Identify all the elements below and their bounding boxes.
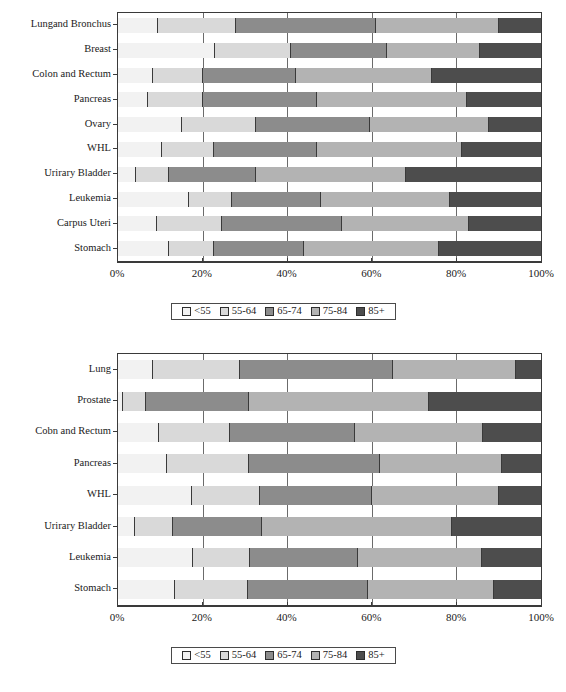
bar-segment-65-74 bbox=[222, 216, 343, 231]
bar-segment-65-74 bbox=[240, 360, 393, 379]
bar-segment-75-84 bbox=[317, 142, 463, 157]
bar-segment-55 bbox=[118, 92, 148, 107]
bar-segment-75-84 bbox=[317, 92, 467, 107]
bar-segment-65-74 bbox=[250, 548, 358, 567]
chart-legend-1: <5555-6465-7475-8485+ bbox=[171, 303, 396, 320]
legend-swatch-icon bbox=[311, 651, 320, 660]
bar-row bbox=[118, 92, 541, 107]
bar-row bbox=[118, 192, 541, 207]
bar-segment-55-64 bbox=[159, 423, 230, 442]
bar-segment-85 bbox=[499, 18, 541, 33]
bar-segment-55 bbox=[118, 360, 153, 379]
bar-segment-65-74 bbox=[291, 43, 386, 58]
legend-item: 75-84 bbox=[311, 650, 348, 661]
bar-segment-65-74 bbox=[260, 486, 372, 505]
bar-row bbox=[118, 486, 541, 505]
bar-segment-75-84 bbox=[304, 241, 439, 256]
legend-item: 65-74 bbox=[265, 650, 302, 661]
bar-segment-85 bbox=[489, 117, 541, 132]
bar-segment-65-74 bbox=[236, 18, 376, 33]
category-tick bbox=[113, 431, 117, 432]
bar-row bbox=[118, 360, 541, 379]
bar-segment-55-64 bbox=[167, 454, 249, 473]
bar-segment-65-74 bbox=[146, 392, 249, 411]
bar-row bbox=[118, 142, 541, 157]
bar-segment-85 bbox=[462, 142, 541, 157]
x-axis-tick bbox=[371, 258, 372, 262]
x-axis-tick-label: 40% bbox=[277, 268, 297, 279]
x-axis-tick-label: 80% bbox=[446, 612, 466, 623]
bar-segment-55 bbox=[118, 192, 189, 207]
bar-segment-85 bbox=[439, 241, 541, 256]
x-axis-tick bbox=[456, 602, 457, 606]
bar-row bbox=[118, 423, 541, 442]
category-label: Leukemia bbox=[0, 193, 111, 204]
bar-row bbox=[118, 167, 541, 182]
bar-row bbox=[118, 216, 541, 231]
legend-swatch-icon bbox=[356, 651, 365, 660]
bar-segment-85 bbox=[452, 517, 541, 536]
x-axis-tick bbox=[456, 258, 457, 262]
bar-segment-55 bbox=[118, 423, 159, 442]
legend-item: <55 bbox=[182, 650, 210, 661]
legend-swatch-icon bbox=[220, 307, 229, 316]
bar-row bbox=[118, 43, 541, 58]
chart-plot-area-1: Lungand BronchusBreastColon and RectumPa… bbox=[0, 0, 566, 300]
legend-item: <55 bbox=[182, 306, 210, 317]
legend-item: 65-74 bbox=[265, 306, 302, 317]
bar-segment-55 bbox=[118, 241, 169, 256]
x-axis-tick bbox=[541, 602, 542, 606]
legend-swatch-icon bbox=[220, 651, 229, 660]
bar-segment-55-64 bbox=[153, 360, 240, 379]
category-tick bbox=[113, 124, 117, 125]
legend-swatch-icon bbox=[356, 307, 365, 316]
legend-label: 55-64 bbox=[232, 306, 257, 317]
x-axis-tick bbox=[202, 602, 203, 606]
bar-segment-55-64 bbox=[193, 548, 250, 567]
category-label: Urirary Bladder bbox=[0, 168, 111, 179]
bar-row bbox=[118, 517, 541, 536]
bar-row bbox=[118, 68, 541, 83]
legend-label: <55 bbox=[194, 306, 210, 317]
category-label: Lungand Bronchus bbox=[0, 19, 111, 30]
bar-row bbox=[118, 117, 541, 132]
legend-swatch-icon bbox=[265, 651, 274, 660]
legend-swatch-icon bbox=[182, 651, 191, 660]
bar-segment-55-64 bbox=[158, 18, 236, 33]
chart-panel-female-cancer-age-distribution: Lungand BronchusBreastColon and RectumPa… bbox=[0, 0, 566, 345]
category-label: Colon and Rectum bbox=[0, 69, 111, 80]
bar-segment-75-84 bbox=[256, 167, 405, 182]
bar-segment-55-64 bbox=[157, 216, 221, 231]
bar-segment-65-74 bbox=[248, 580, 368, 599]
category-tick bbox=[113, 223, 117, 224]
bar-segment-85 bbox=[406, 167, 541, 182]
bar-segment-55 bbox=[118, 117, 182, 132]
category-tick bbox=[113, 74, 117, 75]
category-tick bbox=[113, 400, 117, 401]
x-axis-tick bbox=[202, 258, 203, 262]
bar-segment-55 bbox=[118, 548, 193, 567]
bar-segment-55 bbox=[118, 517, 135, 536]
bar-segment-55-64 bbox=[123, 392, 146, 411]
bar-segment-75-84 bbox=[296, 68, 431, 83]
x-axis-line bbox=[117, 606, 542, 607]
category-tick bbox=[113, 99, 117, 100]
bar-segment-75-84 bbox=[372, 486, 499, 505]
x-axis-tick-label: 100% bbox=[528, 612, 554, 623]
bar-segment-85 bbox=[467, 92, 541, 107]
category-tick bbox=[113, 49, 117, 50]
bar-segment-85 bbox=[480, 43, 540, 58]
bar-segment-55-64 bbox=[182, 117, 256, 132]
category-tick bbox=[113, 463, 117, 464]
bar-segment-65-74 bbox=[232, 192, 321, 207]
legend-label: 65-74 bbox=[277, 306, 302, 317]
bar-segment-55 bbox=[118, 216, 157, 231]
category-label: Pancreas bbox=[0, 94, 111, 105]
x-axis-tick bbox=[287, 602, 288, 606]
bar-segment-75-84 bbox=[262, 517, 452, 536]
x-axis-tick bbox=[117, 258, 118, 262]
bar-segment-55-64 bbox=[169, 241, 214, 256]
category-label: Carpus Uteri bbox=[0, 218, 111, 229]
x-axis-tick-label: 0% bbox=[110, 268, 125, 279]
bar-segment-65-74 bbox=[214, 241, 305, 256]
